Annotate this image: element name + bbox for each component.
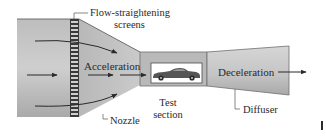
- label-section: section: [153, 109, 183, 120]
- label-nozzle: Nozzle: [110, 115, 140, 126]
- diffuser-leader-line: [235, 89, 240, 109]
- label-acceleration: Acceleration: [84, 60, 141, 72]
- label-deceleration: Deceleration: [218, 66, 275, 78]
- label-diffuser: Diffuser: [243, 104, 278, 115]
- flow-straightening-screens: [70, 19, 79, 117]
- label-flow-straightening: Flow-straightening: [90, 7, 171, 18]
- screens-leader-line: [74, 13, 88, 19]
- wind-tunnel-diagram: Flow-straightening screens Acceleration …: [0, 0, 326, 138]
- label-test: Test: [159, 97, 176, 108]
- nozzle-leader-line: [103, 114, 108, 119]
- edge-mark: [321, 121, 323, 130]
- settling-chamber: [17, 19, 79, 117]
- label-screens: screens: [114, 19, 145, 30]
